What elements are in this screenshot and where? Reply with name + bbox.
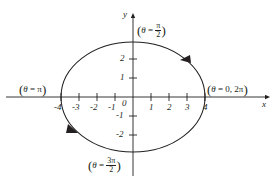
fraction-denominator: 2 xyxy=(155,31,161,39)
theta-symbol: θ xyxy=(92,160,96,170)
origin-label: 0 xyxy=(122,99,127,108)
theta-label-right: (θ = 0, 2π) xyxy=(207,83,248,96)
equals-sign: = xyxy=(148,25,153,35)
theta-symbol: θ xyxy=(23,84,27,94)
theta-symbol: θ xyxy=(211,84,215,94)
x-tick-label--1: -1 xyxy=(108,103,116,112)
fraction-pi-over-2: π2 xyxy=(155,22,161,40)
equals-sign: = xyxy=(218,84,223,94)
fraction-denominator: 2 xyxy=(106,166,116,174)
y-tick-label-2: 2 xyxy=(120,54,125,63)
y-tick-label--2: -2 xyxy=(116,130,124,139)
equals-sign: = xyxy=(99,160,104,170)
fraction-3pi-over-2: 3π2 xyxy=(106,157,116,175)
x-tick-label-4: 4 xyxy=(203,103,208,112)
paren-close: ) xyxy=(243,82,247,97)
theta-label-bottom: (θ = 3π2) xyxy=(88,157,121,175)
paren-close: ) xyxy=(161,23,165,38)
equals-sign: = xyxy=(30,84,35,94)
x-tick-label--2: -2 xyxy=(90,103,98,112)
theta-symbol: θ xyxy=(141,25,145,35)
x-tick-label--4: -4 xyxy=(54,103,62,112)
y-tick-label-1: 1 xyxy=(120,73,125,82)
x-tick-label-3: 3 xyxy=(185,103,190,112)
x-tick-label-2: 2 xyxy=(167,103,172,112)
y-axis-label: y xyxy=(123,10,127,19)
x-tick-label--3: -3 xyxy=(72,103,80,112)
x-tick-label-1: 1 xyxy=(149,103,154,112)
theta-label-left: (θ = π) xyxy=(19,83,46,96)
direction-arrow-lower-left-icon xyxy=(66,124,78,133)
y-tick-label--1: -1 xyxy=(116,111,124,120)
paren-close: ) xyxy=(116,158,120,173)
paren-close: ) xyxy=(42,82,46,97)
theta-label-top: (θ = π2) xyxy=(137,22,166,40)
x-axis-label: x xyxy=(262,100,266,109)
figure-canvas: y x 0 -4 -3 -2 -1 1 2 3 4 2 1 -1 -2 (θ =… xyxy=(0,0,280,182)
theta-value: 0, 2π xyxy=(225,84,243,94)
